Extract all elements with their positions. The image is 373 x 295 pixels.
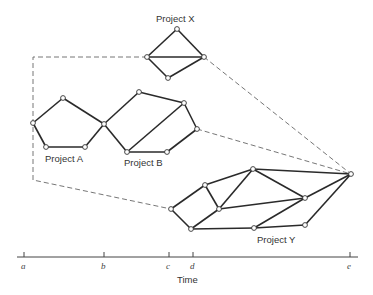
- axis-title: Time: [177, 274, 198, 285]
- project-a-network: [33, 98, 104, 147]
- project-a-label: Project A: [45, 153, 84, 164]
- tick-label-b: b: [101, 261, 106, 271]
- tick-label-a: a: [21, 261, 26, 271]
- time-axis: [17, 252, 358, 257]
- tick-label-e: e: [347, 261, 351, 271]
- project-y-network: [171, 169, 351, 229]
- project-network-diagram: Project X Project A Project B Project Y …: [0, 0, 373, 295]
- tick-label-d: d: [190, 261, 195, 271]
- project-y-label: Project Y: [257, 234, 296, 245]
- project-x-label: Project X: [156, 13, 195, 24]
- project-x-network: [147, 29, 204, 78]
- tick-label-c: c: [166, 261, 170, 271]
- project-b-label: Project B: [124, 157, 163, 168]
